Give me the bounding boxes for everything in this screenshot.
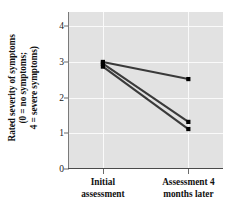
- x-axis-category-label: Initialassessment: [81, 177, 124, 200]
- x-axis-tick-marks: [69, 169, 223, 175]
- data-point-marker: [186, 120, 190, 124]
- y-axis-title-line-2: (0 = no symptoms;: [18, 34, 29, 141]
- data-series: [101, 64, 191, 131]
- y-axis-tick-label: 2: [52, 93, 64, 103]
- y-axis-tick-label: 4: [52, 21, 64, 31]
- plot-area: [69, 12, 223, 169]
- x-axis-category-label: Assessment 4months later: [162, 177, 214, 200]
- x-axis-category-label-line: Assessment 4: [162, 177, 214, 189]
- series-line: [103, 64, 188, 122]
- x-axis-tick-mark: [103, 169, 104, 174]
- x-axis-category-labels: InitialassessmentAssessment 4months late…: [69, 177, 223, 205]
- y-axis-title-line-1: Rated severity of symptoms: [7, 34, 18, 141]
- x-axis-category-label-line: months later: [162, 189, 214, 201]
- y-axis-tick-label: 3: [52, 57, 64, 67]
- x-axis-category-label-line: assessment: [81, 189, 124, 201]
- y-axis-tick-label: 1: [52, 128, 64, 138]
- data-point-marker: [186, 77, 190, 81]
- x-axis-tick-mark: [188, 169, 189, 174]
- y-axis-title-line-3: 4 = severe symptoms): [30, 34, 41, 141]
- data-point-marker: [186, 127, 190, 131]
- data-point-marker: [101, 64, 105, 68]
- data-series-layer: [69, 12, 223, 169]
- y-axis-title: Rated severity of symptoms (0 = no sympt…: [0, 0, 48, 175]
- y-axis-tick-labels: 01234: [50, 0, 64, 205]
- x-axis-category-label-line: Initial: [81, 177, 124, 189]
- slope-chart: Rated severity of symptoms (0 = no sympt…: [0, 0, 225, 205]
- y-axis-tick-label: 0: [52, 164, 64, 174]
